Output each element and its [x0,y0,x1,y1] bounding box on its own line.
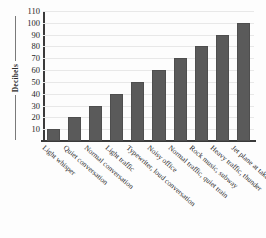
bar [152,70,165,141]
bar-slot [85,11,106,141]
bar [68,117,81,141]
bar-slot [170,11,191,141]
bar-slot [191,11,212,141]
y-axis-tick-label: 80 [32,42,41,51]
bar-slot [106,11,127,141]
y-axis-tick-label: 20 [32,113,41,122]
y-axis-tick-label: 60 [32,66,41,75]
y-axis-tick-label: 10 [32,125,41,134]
y-axis-title: Decibels [11,61,20,95]
bar [174,58,187,141]
y-axis-title-rule-bottom [15,95,16,140]
decibels-bar-chart: Decibels 102030405060708090100110 Light … [0,0,266,238]
x-axis-category-labels: Light whisperQuiet conversationNormal co… [43,142,254,236]
y-axis-tick-label: 70 [32,54,41,63]
y-axis-tick-label: 50 [32,78,41,87]
y-axis-tick-labels: 102030405060708090100110 [24,11,40,141]
y-axis-tick-label: 100 [27,19,40,28]
bar-slot [64,11,85,141]
y-axis-title-group: Decibels [6,16,24,140]
y-axis-tick-label: 30 [32,101,41,110]
y-axis-tick-label: 40 [32,89,41,98]
bar-slot [43,11,64,141]
plot-area [43,11,254,141]
y-axis-tick-label: 110 [28,7,40,16]
y-axis-tick-label: 90 [32,30,41,39]
bar [89,106,102,141]
bar [47,129,60,141]
bar-slot [233,11,254,141]
bar [131,82,144,141]
bar [237,23,250,141]
bars-layer [43,11,254,141]
bar-slot [148,11,169,141]
bar-slot [212,11,233,141]
bar-slot [127,11,148,141]
y-axis-title-rule-top [15,16,16,61]
bar [110,94,123,141]
bar [216,35,229,141]
bar [195,46,208,141]
